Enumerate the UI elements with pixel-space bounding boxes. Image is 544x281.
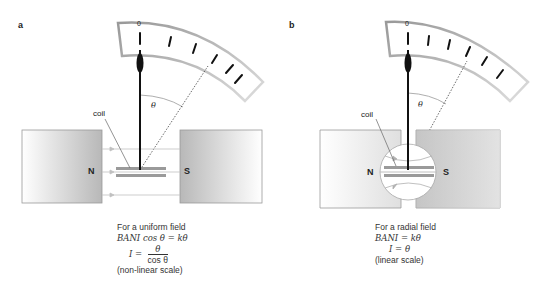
panel-label-b: b	[289, 20, 295, 30]
fraction-denominator: cos θ	[148, 255, 168, 265]
coil-a-bottom	[116, 174, 166, 177]
needle-counterweight-b	[405, 53, 412, 73]
caption-a-note: (non-linear scale)	[117, 265, 188, 276]
panel-b-diagram	[320, 22, 528, 208]
pole-s-a: S	[184, 166, 190, 176]
pole-s-b: S	[443, 167, 449, 177]
pole-n-b: N	[367, 167, 374, 177]
caption-b-eq2: I = θ	[375, 244, 436, 255]
magnet-s-a	[180, 130, 262, 203]
scale-zero-b: 0	[405, 20, 409, 27]
caption-b-line1: For a radial field	[375, 222, 436, 233]
caption-b-eq1: BANI = kθ	[375, 233, 436, 244]
coil-leader-a	[105, 119, 130, 168]
theta-arc-a	[140, 95, 183, 107]
theta-label-a: θ	[151, 101, 156, 110]
galvanometer-diagram	[0, 0, 544, 281]
caption-b-note: (linear scale)	[375, 255, 436, 266]
fraction-numerator: θ	[148, 244, 168, 255]
caption-a-eq1: BANI cos θ = kθ	[117, 233, 188, 244]
eq2-lhs: I =	[129, 249, 142, 259]
caption-a-line1: For a uniform field	[117, 222, 188, 233]
panel-label-a: a	[18, 20, 23, 30]
needle-counterweight-a	[137, 53, 144, 73]
panel-a-diagram	[22, 22, 263, 203]
coil-b-bottom	[384, 174, 434, 177]
pole-n-a: N	[88, 166, 95, 176]
coil-label-a: coil	[93, 109, 105, 118]
caption-b: For a radial field BANI = kθ I = θ (line…	[375, 222, 436, 266]
caption-a-eq2: I = θ cos θ	[117, 244, 188, 265]
coil-label-b: coil	[361, 110, 373, 119]
theta-label-b: θ	[418, 100, 423, 109]
fraction: θ cos θ	[148, 244, 168, 265]
caption-a: For a uniform field BANI cos θ = kθ I = …	[117, 222, 188, 276]
scale-zero-a: 0	[137, 20, 141, 27]
theta-arc-b	[408, 93, 446, 104]
